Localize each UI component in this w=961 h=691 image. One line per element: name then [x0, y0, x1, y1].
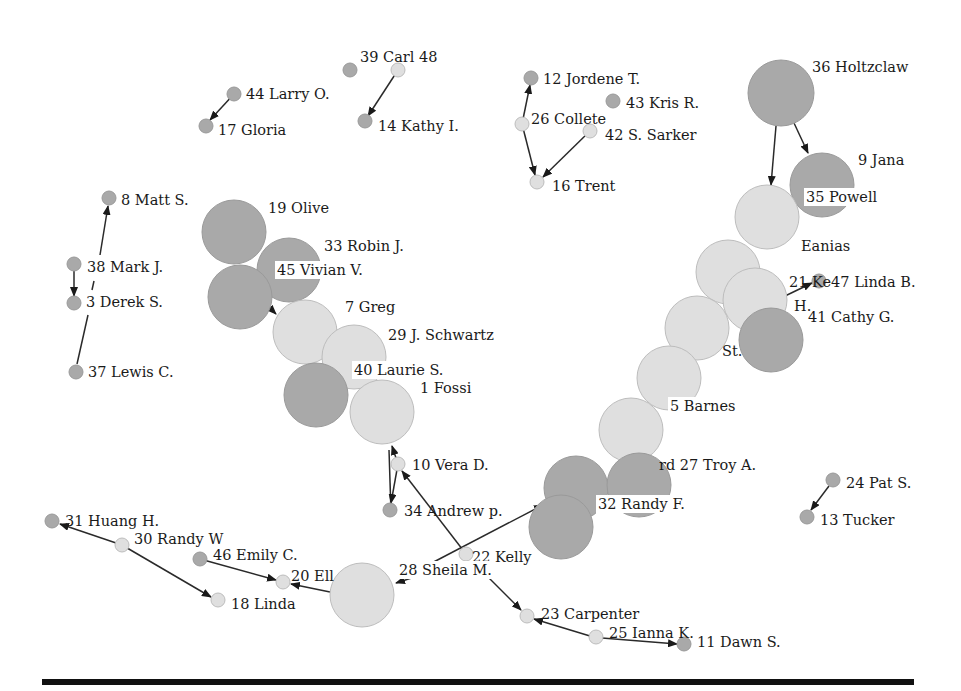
node-label-26: 26 Collete — [531, 111, 606, 127]
edge-arrow — [811, 486, 829, 510]
node-13[interactable] — [800, 510, 814, 524]
edge-arrow — [771, 126, 776, 185]
node-30[interactable] — [115, 538, 129, 552]
node-25[interactable] — [589, 630, 603, 644]
node-20[interactable] — [276, 575, 290, 589]
node-43[interactable] — [606, 94, 620, 108]
node-37[interactable] — [69, 365, 83, 379]
node-44[interactable] — [227, 87, 241, 101]
edge-arrow — [543, 131, 590, 177]
node-label-28: 28 Sheila M. — [399, 562, 492, 578]
node-label-34: 34 Andrew p. — [404, 503, 503, 519]
node-39[interactable] — [343, 63, 357, 77]
node-3[interactable] — [67, 296, 81, 310]
edge-arrow — [100, 206, 108, 255]
node-label-3: 3 Derek S. — [86, 294, 163, 310]
node-12[interactable] — [524, 71, 538, 85]
node-label-41: 41 Cathy G. — [808, 309, 894, 325]
node-9[interactable] — [790, 153, 854, 217]
node-c_e[interactable] — [599, 398, 663, 462]
node-label-16: 16 Trent — [552, 178, 616, 194]
node-label-36: 36 Holtzclaw — [812, 59, 909, 75]
node-label-27: rd 27 Troy A. — [659, 457, 756, 473]
node-label-21: 21 Ke47 Linda B. — [789, 274, 916, 290]
node-label-32: 32 Randy F. — [598, 496, 685, 512]
node-16[interactable] — [530, 175, 544, 189]
node-label-39: 39 Carl 48 — [360, 49, 437, 65]
node-label-45: 45 Vivian V. — [277, 262, 363, 278]
node-19[interactable] — [202, 200, 266, 264]
node-label-19: 19 Olive — [268, 200, 329, 216]
node-label-11: 11 Dawn S. — [697, 634, 781, 650]
node-label-37: 37 Lewis C. — [88, 364, 174, 380]
node-31[interactable] — [45, 514, 59, 528]
node-8[interactable] — [102, 191, 116, 205]
node-48[interactable] — [391, 63, 405, 77]
node-c_h[interactable] — [529, 495, 593, 559]
node-45[interactable] — [208, 265, 272, 329]
node-label-7: 7 Greg — [345, 299, 395, 315]
node-40x[interactable] — [284, 363, 348, 427]
node-23[interactable] — [520, 609, 534, 623]
node-1[interactable] — [350, 380, 414, 444]
node-label-12: 12 Jordene T. — [543, 71, 640, 87]
edges-layer — [60, 70, 829, 644]
node-17[interactable] — [199, 119, 213, 133]
node-label-42: 42 S. Sarker — [605, 127, 697, 143]
node-label-38: 38 Mark J. — [87, 259, 163, 275]
edge-arrow — [92, 281, 94, 290]
node-label-40: 40 Laurie S. — [354, 362, 443, 378]
node-label-29: 29 J. Schwartz — [388, 327, 494, 343]
node-label-23: 23 Carpenter — [541, 606, 639, 622]
node-label-14: 14 Kathy I. — [378, 118, 459, 134]
node-label-30: 30 Randy W — [134, 531, 223, 547]
node-label-10: 10 Vera D. — [412, 457, 489, 473]
node-10[interactable] — [391, 457, 405, 471]
node-label-eanias: Eanias — [801, 238, 850, 254]
node-34[interactable] — [383, 503, 397, 517]
node-label-1: 1 Fossi — [420, 380, 472, 396]
edge-arrow — [368, 70, 398, 116]
node-label-18: 18 Linda — [231, 596, 296, 612]
node-label-46: 46 Emily C. — [213, 547, 298, 563]
node-label-31: 31 Huang H. — [65, 513, 159, 529]
node-label-17: 17 Gloria — [218, 122, 287, 138]
node-eanias[interactable] — [735, 185, 799, 249]
edge-arrow — [77, 315, 88, 364]
node-label-25: 25 Ianna K. — [609, 625, 694, 641]
network-diagram: 39 Carl 4844 Larry O.17 Gloria14 Kathy I… — [0, 0, 961, 691]
node-label-st: St. — [722, 343, 742, 359]
edge-arrow — [522, 124, 535, 175]
node-28x[interactable] — [330, 563, 394, 627]
node-label-24: 24 Pat S. — [846, 475, 911, 491]
node-label-43: 43 Kris R. — [626, 95, 699, 111]
node-38[interactable] — [67, 257, 81, 271]
node-18[interactable] — [211, 593, 225, 607]
node-24[interactable] — [826, 473, 840, 487]
edge-arrow — [291, 584, 330, 592]
node-label-9: 9 Jana — [858, 152, 905, 168]
bottom-rule — [42, 679, 914, 685]
node-26[interactable] — [515, 117, 529, 131]
node-label-13: 13 Tucker — [820, 512, 895, 528]
node-22[interactable] — [459, 547, 473, 561]
node-36[interactable] — [748, 60, 814, 126]
node-label-20: 20 Ell — [291, 568, 334, 584]
node-14[interactable] — [358, 114, 372, 128]
node-label-8: 8 Matt S. — [121, 192, 189, 208]
node-label-33: 33 Robin J. — [324, 238, 404, 254]
node-label-35: 35 Powell — [806, 189, 878, 205]
edge-arrow — [794, 123, 808, 153]
node-41[interactable] — [739, 308, 803, 372]
node-label-44: 44 Larry O. — [246, 86, 330, 102]
node-46[interactable] — [193, 552, 207, 566]
node-label-5: 5 Barnes — [670, 398, 735, 414]
